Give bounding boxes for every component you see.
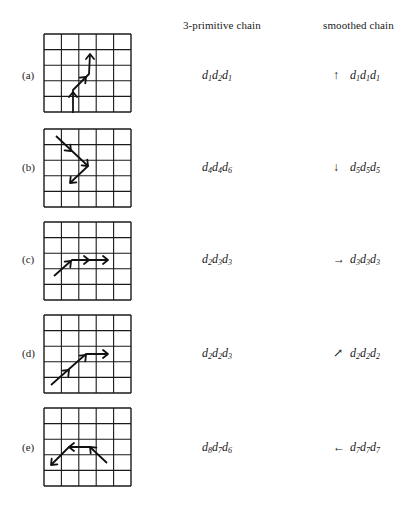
smoothed-chain-sequence: d5d5d5	[350, 160, 380, 174]
figure-row-e: (e) d8d7d6 ← d7d7d7	[0, 0, 409, 90]
chain-grid-diagram	[43, 407, 132, 487]
smoothed-chain-code: → d3d3d3	[333, 252, 380, 267]
smoothed-chain-code: ← d7d7d7	[333, 440, 380, 455]
row-label: (b)	[22, 161, 35, 173]
row-label: (c)	[22, 253, 34, 265]
row-label: (e)	[22, 441, 34, 453]
smoothed-chain-sequence: d7d7d7	[350, 440, 380, 454]
primitive-chain-code: d2d2d3	[202, 346, 232, 361]
direction-arrow-icon: ↗	[333, 346, 347, 361]
smoothed-chain-sequence: d3d3d3	[350, 252, 380, 266]
chain-grid-diagram	[43, 314, 132, 394]
chain-path	[51, 354, 108, 385]
primitive-chain-code: d2d3d3	[202, 252, 232, 267]
direction-arrow-icon: ↓	[333, 160, 347, 175]
smoothed-chain-code: ↓ d5d5d5	[333, 160, 380, 175]
direction-arrow-icon: ←	[333, 440, 347, 455]
chain-path	[54, 260, 108, 276]
row-label: (d)	[22, 347, 35, 359]
smoothed-chain-code: ↗ d2d2d2	[333, 346, 380, 361]
smoothed-chain-sequence: d2d2d2	[350, 346, 380, 360]
primitive-chain-code: d4d4d6	[202, 160, 232, 175]
direction-arrow-icon: →	[333, 252, 347, 267]
chain-grid-diagram	[43, 221, 132, 301]
primitive-chain-code: d8d7d6	[202, 440, 232, 455]
chain-grid-diagram	[43, 128, 132, 208]
